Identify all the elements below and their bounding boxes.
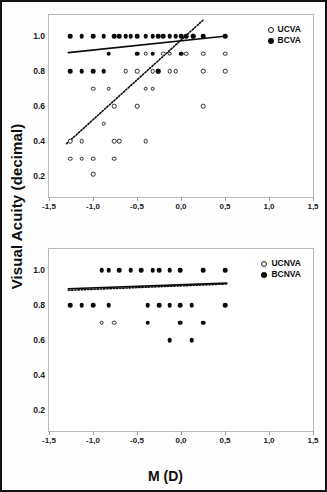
data-point-BCVA <box>101 34 106 39</box>
data-point-BCNVA <box>117 268 122 273</box>
x-tick-mark-bottom <box>269 431 270 435</box>
data-point-UCVA <box>91 156 96 161</box>
x-tick-label-bottom: -0,5 <box>130 436 144 445</box>
x-tick-label-bottom: 1,0 <box>263 436 274 445</box>
data-point-BCVA <box>129 34 134 39</box>
data-point-BCNVA <box>91 303 96 308</box>
legend-bottom: UCNVABCNVA <box>257 255 307 283</box>
data-point-UCVA <box>223 51 228 56</box>
data-point-BCNVA <box>157 303 162 308</box>
data-point-BCVA <box>101 69 106 74</box>
x-tick-mark-top <box>313 197 314 201</box>
data-point-BCVA <box>156 34 161 39</box>
legend-label: UCVA <box>278 24 301 35</box>
data-point-BCVA <box>68 34 73 39</box>
data-point-UCVA <box>135 104 140 109</box>
data-point-BCNVA <box>223 303 228 308</box>
x-tick-label-bottom: 1,5 <box>307 436 318 445</box>
data-point-BCVA <box>184 34 189 39</box>
y-tick-label-top: 0.8 <box>33 66 45 76</box>
data-point-UCVA <box>201 69 206 74</box>
x-tick-label-top: -1,0 <box>86 202 100 211</box>
data-point-UCVA <box>107 86 112 91</box>
data-point-BCVA <box>91 69 96 74</box>
y-tick-label-top: 0.2 <box>33 171 45 181</box>
data-point-BCNVA <box>145 303 150 308</box>
data-point-BCVA <box>151 34 156 39</box>
trendline-BCNVA-fit <box>68 283 226 289</box>
x-tick-label-top: 0,5 <box>219 202 230 211</box>
y-tick-label-bottom: 0.4 <box>33 370 45 380</box>
y-tick-label-top: 0.4 <box>33 136 45 146</box>
data-point-BCVA <box>79 34 84 39</box>
data-point-BCNVA <box>157 268 162 273</box>
legend-marker-icon <box>268 38 274 44</box>
data-point-BCVA <box>179 51 184 56</box>
data-point-BCVA <box>223 34 228 39</box>
data-point-BCVA <box>107 51 112 56</box>
data-point-BCNVA <box>189 303 194 308</box>
y-axis-title: Visual Acuity (decimal) <box>8 107 25 307</box>
data-point-BCNVA <box>223 268 228 273</box>
data-point-BCVA <box>123 34 128 39</box>
chart-panel-distance-acuity: UCVABCVA 1.00.80.60.40.2-1,5-1,0-0,50,00… <box>30 8 318 230</box>
legend-item-UCNVA: UCNVA <box>261 258 301 269</box>
y-tick-label-bottom: 0.6 <box>33 335 45 345</box>
data-point-BCNVA <box>139 268 144 273</box>
y-tick-label-bottom: 1.0 <box>33 265 45 275</box>
x-tick-label-bottom: -1,5 <box>42 436 56 445</box>
data-point-BCNVA <box>107 303 112 308</box>
data-point-BCVA <box>144 34 149 39</box>
data-point-UCVA <box>167 69 172 74</box>
x-tick-mark-top <box>93 197 94 201</box>
data-point-BCNVA <box>178 303 183 308</box>
legend-label: BCNVA <box>271 269 301 280</box>
x-tick-label-top: 1,5 <box>307 202 318 211</box>
y-tick-label-top: 1.0 <box>33 31 45 41</box>
data-point-BCNVA <box>178 320 183 325</box>
data-point-BCVA <box>135 34 140 39</box>
data-point-BCVA <box>161 34 166 39</box>
plot-area-top: UCVABCVA 1.00.80.60.40.2-1,5-1,0-0,50,00… <box>48 14 314 198</box>
data-point-UCVA <box>68 156 73 161</box>
legend-item-BCVA: BCVA <box>268 35 301 46</box>
data-point-UCVA <box>161 51 166 56</box>
x-tick-mark-top <box>49 197 50 201</box>
legend-item-UCVA: UCVA <box>268 24 301 35</box>
data-point-BCNVA <box>79 303 84 308</box>
data-point-BCVA <box>135 51 140 56</box>
y-tick-label-bottom: 0.8 <box>33 300 45 310</box>
data-point-BCNVA <box>68 303 73 308</box>
x-tick-label-bottom: 0,0 <box>175 436 186 445</box>
data-point-BCNVA <box>100 268 105 273</box>
x-tick-mark-top <box>269 197 270 201</box>
data-point-UCVA <box>123 69 128 74</box>
data-point-BCNVA <box>178 268 183 273</box>
data-point-BCNVA <box>151 268 156 273</box>
data-point-BCVA <box>79 69 84 74</box>
trendline-BCVA-fit <box>68 36 226 53</box>
data-point-UCNVA <box>112 320 117 325</box>
data-point-UCVA <box>151 69 156 74</box>
data-point-UCVA <box>79 139 84 144</box>
y-tick-label-top: 0.6 <box>33 101 45 111</box>
data-point-BCVA <box>173 34 178 39</box>
data-point-BCNVA <box>201 320 206 325</box>
data-point-UCVA <box>112 139 117 144</box>
legend-top: UCVABCVA <box>264 21 307 49</box>
figure-container: Visual Acuity (decimal) UCVABCVA 1.00.80… <box>0 0 327 492</box>
data-point-UCVA <box>144 139 149 144</box>
data-point-UCVA <box>68 139 73 144</box>
data-point-BCVA <box>167 34 172 39</box>
x-tick-label-bottom: 0,5 <box>219 436 230 445</box>
data-point-BCVA <box>156 69 161 74</box>
x-tick-mark-top <box>225 197 226 201</box>
legend-marker-icon <box>268 27 274 33</box>
data-point-UCVA <box>79 156 84 161</box>
data-point-BCVA <box>117 34 122 39</box>
x-tick-mark-bottom <box>93 431 94 435</box>
x-tick-label-bottom: -1,0 <box>86 436 100 445</box>
x-tick-mark-top <box>137 197 138 201</box>
x-tick-mark-bottom <box>49 431 50 435</box>
data-point-UCVA <box>117 139 122 144</box>
